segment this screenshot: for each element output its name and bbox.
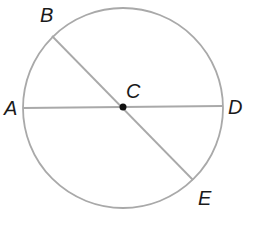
label-A: A [3, 97, 17, 119]
geometry-diagram: A B C D E [0, 0, 255, 229]
label-E: E [198, 187, 212, 209]
label-C: C [126, 80, 141, 102]
label-D: D [228, 96, 242, 118]
center-point [120, 104, 127, 111]
label-B: B [40, 4, 53, 26]
